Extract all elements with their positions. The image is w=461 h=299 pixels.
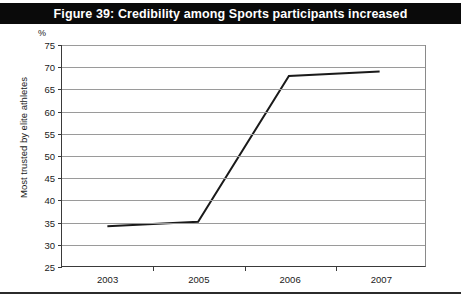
data-line (107, 72, 379, 227)
y-tick-label: 50 (44, 151, 55, 162)
y-tick-label: 40 (44, 195, 55, 206)
y-tick-label: 35 (44, 217, 55, 228)
gridline (62, 156, 425, 157)
y-tick-mark (58, 178, 62, 179)
y-tick-mark (58, 200, 62, 201)
y-tick-label: 55 (44, 128, 55, 139)
x-tick-label: 2003 (97, 274, 118, 285)
y-tick-mark (58, 245, 62, 246)
x-tick-label: 2006 (280, 274, 301, 285)
y-tick-label: 65 (44, 84, 55, 95)
gridline (62, 45, 425, 46)
gridline (62, 245, 425, 246)
x-tick-mark (153, 266, 154, 271)
gridline (62, 134, 425, 135)
y-tick-mark (58, 45, 62, 46)
y-tick-label: 70 (44, 62, 55, 73)
y-tick-mark (58, 67, 62, 68)
y-tick-label: 25 (44, 262, 55, 273)
gridline (62, 67, 425, 68)
gridline (62, 178, 425, 179)
y-tick-mark (58, 134, 62, 135)
figure-title: Figure 39: Credibility among Sports part… (54, 7, 408, 21)
y-tick-mark (58, 112, 62, 113)
gridline (62, 200, 425, 201)
y-tick-label: 30 (44, 239, 55, 250)
y-tick-label: 60 (44, 106, 55, 117)
plot-area: 25303540455055606570752003200520062007 (61, 45, 426, 267)
y-tick-mark (58, 89, 62, 90)
y-axis-unit-label: % (38, 28, 46, 38)
figure-title-bar: Figure 39: Credibility among Sports part… (0, 3, 461, 24)
x-tick-mark (245, 266, 246, 271)
gridline (62, 89, 425, 90)
x-tick-label: 2007 (371, 274, 392, 285)
x-tick-mark (336, 266, 337, 271)
y-tick-label: 75 (44, 40, 55, 51)
gridline (62, 223, 425, 224)
y-tick-label: 45 (44, 173, 55, 184)
y-tick-mark (58, 223, 62, 224)
y-tick-mark (58, 267, 62, 268)
gridline (62, 112, 425, 113)
y-tick-mark (58, 156, 62, 157)
bottom-rule (0, 292, 461, 294)
figure-body: % Most trusted by elite athletes 2530354… (0, 24, 461, 292)
y-axis-title: Most trusted by elite athletes (18, 53, 29, 223)
x-tick-label: 2005 (188, 274, 209, 285)
